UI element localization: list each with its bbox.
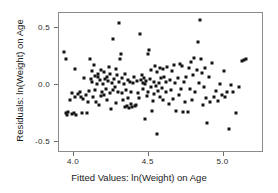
data-point xyxy=(95,83,98,86)
data-point xyxy=(63,51,66,54)
data-point xyxy=(144,117,147,120)
x-tick xyxy=(73,152,74,156)
data-point xyxy=(187,66,190,69)
data-point xyxy=(157,90,160,93)
data-point xyxy=(104,88,107,91)
data-point xyxy=(231,90,234,93)
data-point xyxy=(90,80,93,83)
data-point xyxy=(151,100,154,103)
data-point xyxy=(127,96,130,99)
data-point xyxy=(170,70,173,73)
data-point xyxy=(129,90,132,93)
data-point xyxy=(81,111,84,114)
data-point xyxy=(98,103,101,106)
data-point xyxy=(213,96,216,99)
data-point xyxy=(188,88,191,91)
data-point xyxy=(131,82,134,85)
x-axis-label: Fitted Values: ln(Weight) on Age xyxy=(0,172,278,183)
data-point xyxy=(65,58,68,61)
data-point xyxy=(244,58,247,61)
data-point xyxy=(183,80,186,83)
data-point xyxy=(146,53,149,56)
data-point xyxy=(112,37,115,40)
data-point xyxy=(105,75,108,78)
data-point xyxy=(117,81,120,84)
data-point xyxy=(166,65,169,68)
data-point xyxy=(69,98,72,101)
data-point xyxy=(160,87,163,90)
data-point xyxy=(120,91,123,94)
data-point xyxy=(114,68,117,71)
data-point xyxy=(135,80,138,83)
data-point xyxy=(106,99,109,102)
data-point xyxy=(155,133,158,136)
data-point xyxy=(122,83,125,86)
data-point xyxy=(149,85,152,88)
data-point xyxy=(154,85,157,88)
data-point xyxy=(119,57,122,60)
x-tick xyxy=(223,152,224,156)
data-point xyxy=(176,77,179,80)
data-point xyxy=(195,69,198,72)
data-point xyxy=(103,71,106,74)
data-point xyxy=(91,70,94,73)
data-point xyxy=(163,75,166,78)
data-point xyxy=(216,99,219,102)
residual-scatter-plot: 4.04.55.0 0.50.0-0.5 Fitted Values: ln(W… xyxy=(0,0,278,193)
data-point xyxy=(92,63,95,66)
data-point xyxy=(198,19,201,22)
data-point xyxy=(113,85,116,88)
data-point xyxy=(119,53,122,56)
data-point xyxy=(154,65,157,68)
data-point xyxy=(192,73,195,76)
data-point xyxy=(148,77,151,80)
data-point xyxy=(201,103,204,106)
plot-area xyxy=(58,12,263,152)
data-point xyxy=(113,78,116,81)
data-point xyxy=(175,110,178,113)
y-tick-label: 0.5 xyxy=(38,22,50,31)
data-point xyxy=(78,90,81,93)
data-point xyxy=(237,86,240,89)
data-point xyxy=(179,87,182,90)
data-point xyxy=(199,58,202,61)
data-point xyxy=(220,93,223,96)
data-point xyxy=(73,96,76,99)
data-point xyxy=(66,111,69,114)
data-point xyxy=(116,90,119,93)
data-point xyxy=(168,79,171,82)
data-point xyxy=(172,97,175,100)
data-point xyxy=(177,93,180,96)
x-tick xyxy=(148,152,149,156)
data-point xyxy=(151,110,154,113)
data-point xyxy=(137,97,140,100)
data-point xyxy=(228,128,231,131)
y-tick xyxy=(54,141,58,142)
data-point xyxy=(148,48,151,51)
data-point xyxy=(121,77,124,80)
data-point xyxy=(230,83,233,86)
data-point xyxy=(75,113,78,116)
data-point xyxy=(193,56,196,59)
data-point xyxy=(87,101,90,104)
data-point xyxy=(186,110,189,113)
data-point xyxy=(153,92,156,95)
data-point xyxy=(211,61,214,64)
data-point xyxy=(157,81,160,84)
data-point xyxy=(82,98,85,101)
data-point xyxy=(147,90,150,93)
data-point xyxy=(222,70,225,73)
data-point xyxy=(174,82,177,85)
x-tick-label: 4.5 xyxy=(142,157,154,166)
data-point xyxy=(194,91,197,94)
data-point xyxy=(207,75,210,78)
data-point xyxy=(132,75,135,78)
data-point xyxy=(203,86,206,89)
data-point xyxy=(173,64,176,67)
data-point xyxy=(145,80,148,83)
data-point xyxy=(164,90,167,93)
data-point xyxy=(196,41,199,44)
data-point xyxy=(107,80,110,83)
data-point xyxy=(181,64,184,67)
data-point xyxy=(156,71,159,74)
